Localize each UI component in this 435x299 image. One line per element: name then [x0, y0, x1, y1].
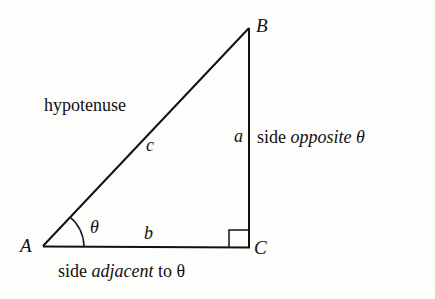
- side-adjacent-suffix: to θ: [153, 261, 185, 281]
- angle-theta-label: θ: [90, 218, 99, 236]
- diagram-canvas: A B C θ b a c hypotenuse side opposite θ…: [0, 0, 435, 299]
- side-opposite-text: side opposite θ: [257, 128, 365, 146]
- side-b-line: [43, 247, 250, 248]
- vertex-label-a: A: [20, 236, 32, 255]
- side-opposite-theta: θ: [352, 127, 365, 147]
- side-a-label: a: [234, 127, 243, 145]
- side-opposite-em: opposite: [291, 127, 352, 147]
- side-c-label: c: [146, 136, 154, 154]
- right-angle-marker: [229, 230, 249, 247]
- vertex-label-c: C: [254, 238, 267, 257]
- vertex-label-b: B: [256, 16, 268, 35]
- side-adjacent-text: side adjacent to θ: [58, 262, 185, 280]
- side-adjacent-em: adjacent: [92, 261, 154, 281]
- hypotenuse-text: hypotenuse: [44, 96, 126, 114]
- angle-theta-arc: [70, 217, 84, 246]
- triangle-figure: [0, 0, 435, 299]
- side-b-label: b: [144, 224, 153, 242]
- side-adjacent-prefix: side: [58, 261, 92, 281]
- side-opposite-prefix: side: [257, 127, 291, 147]
